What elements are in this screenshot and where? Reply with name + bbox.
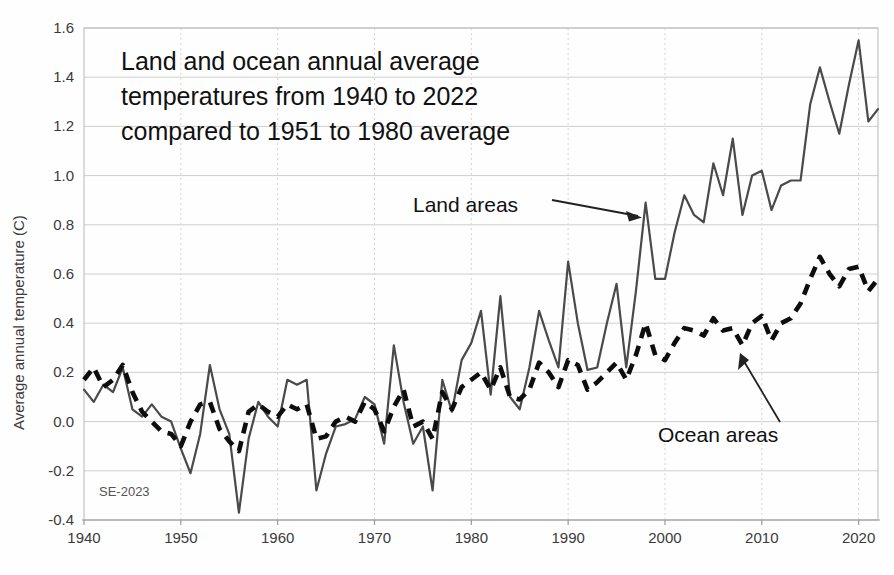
y-tick-label-0.2: 0.2 [53,363,74,380]
annotation-arrowhead-land-areas [626,211,642,222]
watermark-label: SE-2023 [99,484,150,499]
x-tick-label-2010: 2010 [745,529,778,546]
chart-svg: -0.4-0.20.00.20.40.60.81.01.21.41.6 1940… [0,0,894,575]
y-tick-label-0.0: 0.0 [53,413,74,430]
y-tick-label-0.4: 0.4 [53,314,74,331]
x-axis-tick-marks [84,520,859,525]
y-tick-label--0.4: -0.4 [48,511,74,528]
annotation-land-areas: Land areas [413,193,642,222]
x-tick-label-1990: 1990 [551,529,584,546]
chart-title-line-1: Land and ocean annual average [121,47,480,75]
x-tick-label-1970: 1970 [358,529,391,546]
x-tick-label-2020: 2020 [842,529,875,546]
y-axis-title: Average annual temperature (C) [10,215,27,430]
y-tick-label-1.0: 1.0 [53,167,74,184]
x-tick-label-1960: 1960 [261,529,294,546]
x-tick-label-1940: 1940 [67,529,100,546]
chart-figure: -0.4-0.20.00.20.40.60.81.01.21.41.6 1940… [0,0,894,575]
annotation-arrow-land-areas [552,200,638,216]
y-tick-label-0.8: 0.8 [53,216,74,233]
x-tick-label-1980: 1980 [455,529,488,546]
y-tick-label-1.4: 1.4 [53,68,74,85]
y-tick-label-1.6: 1.6 [53,19,74,36]
y-tick-label-0.6: 0.6 [53,265,74,282]
y-axis-tick-labels: -0.4-0.20.00.20.40.60.81.01.21.41.6 [48,19,74,528]
y-tick-label-1.2: 1.2 [53,117,74,134]
chart-title-line-2: temperatures from 1940 to 2022 [121,82,478,110]
x-tick-label-2000: 2000 [648,529,681,546]
x-axis-tick-labels: 194019501960197019801990200020102020 [67,529,875,546]
annotation-arrow-ocean-areas [742,358,780,422]
annotation-label-ocean-areas: Ocean areas [658,423,778,446]
chart-title: Land and ocean annual average temperatur… [121,47,510,145]
y-tick-label--0.2: -0.2 [48,462,74,479]
x-tick-label-1950: 1950 [164,529,197,546]
chart-title-line-3: compared to 1951 to 1980 average [121,117,510,145]
annotation-label-land-areas: Land areas [413,193,518,216]
